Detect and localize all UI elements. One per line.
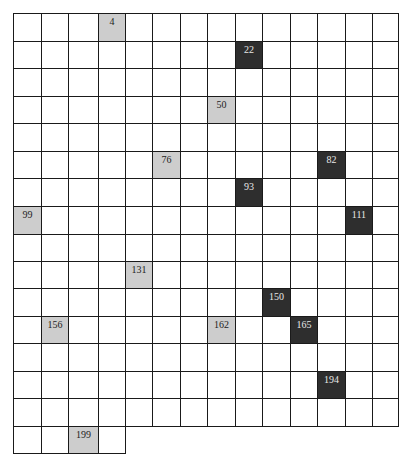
grid-cell-light-4[interactable]: 4 [98, 13, 126, 42]
grid-cell[interactable] [317, 234, 346, 262]
grid-cell[interactable] [41, 96, 69, 124]
grid-cell[interactable] [152, 343, 181, 372]
grid-cell[interactable] [317, 178, 346, 207]
grid-cell[interactable] [41, 151, 69, 179]
grid-cell[interactable] [235, 151, 263, 179]
grid-cell-dark-150[interactable]: 150 [262, 288, 291, 317]
grid-cell[interactable] [207, 68, 236, 97]
grid-cell[interactable] [262, 13, 291, 42]
grid-cell[interactable] [68, 398, 99, 427]
grid-cell[interactable] [68, 343, 99, 372]
grid-cell-light-162[interactable]: 162 [207, 316, 236, 344]
grid-cell[interactable] [125, 68, 153, 97]
grid-cell[interactable] [68, 206, 99, 235]
grid-cell[interactable] [317, 123, 346, 152]
grid-cell[interactable] [152, 288, 181, 317]
grid-cell[interactable] [41, 123, 69, 152]
grid-cell-dark-93[interactable]: 93 [235, 178, 263, 207]
grid-cell[interactable] [13, 343, 42, 372]
grid-cell[interactable] [125, 206, 153, 235]
grid-cell[interactable] [180, 13, 208, 42]
grid-cell[interactable] [317, 68, 346, 97]
grid-cell[interactable] [235, 288, 263, 317]
grid-cell[interactable] [41, 343, 69, 372]
grid-cell[interactable] [125, 371, 153, 399]
grid-cell[interactable] [290, 261, 318, 289]
grid-cell[interactable] [41, 178, 69, 207]
grid-cell[interactable] [372, 398, 399, 427]
grid-cell[interactable] [152, 41, 181, 69]
grid-cell[interactable] [317, 343, 346, 372]
grid-cell[interactable] [180, 234, 208, 262]
grid-cell-light-76[interactable]: 76 [152, 151, 181, 179]
grid-cell[interactable] [290, 13, 318, 42]
grid-cell[interactable] [68, 151, 99, 179]
grid-cell[interactable] [125, 234, 153, 262]
grid-cell-dark-194[interactable]: 194 [317, 371, 346, 399]
grid-cell[interactable] [152, 398, 181, 427]
grid-cell[interactable] [372, 123, 399, 152]
grid-cell[interactable] [98, 68, 126, 97]
grid-cell[interactable] [41, 234, 69, 262]
grid-cell[interactable] [41, 261, 69, 289]
grid-cell[interactable] [180, 123, 208, 152]
grid-cell[interactable] [68, 13, 99, 42]
grid-cell[interactable] [180, 68, 208, 97]
grid-cell[interactable] [98, 123, 126, 152]
grid-cell[interactable] [372, 316, 399, 344]
grid-cell[interactable] [207, 151, 236, 179]
grid-cell[interactable] [345, 398, 373, 427]
grid-cell[interactable] [317, 13, 346, 42]
grid-cell[interactable] [152, 123, 181, 152]
grid-cell[interactable] [13, 96, 42, 124]
grid-cell[interactable] [125, 398, 153, 427]
grid-cell[interactable] [372, 206, 399, 235]
grid-cell[interactable] [41, 68, 69, 97]
grid-cell[interactable] [68, 96, 99, 124]
grid-cell[interactable] [125, 96, 153, 124]
grid-cell[interactable] [125, 343, 153, 372]
grid-cell[interactable] [207, 288, 236, 317]
grid-cell[interactable] [262, 206, 291, 235]
grid-cell[interactable] [125, 123, 153, 152]
grid-cell[interactable] [13, 316, 42, 344]
grid-cell[interactable] [180, 261, 208, 289]
grid-cell[interactable] [98, 96, 126, 124]
grid-cell[interactable] [372, 343, 399, 372]
grid-cell[interactable] [98, 41, 126, 69]
grid-cell[interactable] [152, 68, 181, 97]
grid-cell[interactable] [290, 234, 318, 262]
grid-cell[interactable] [207, 343, 236, 372]
grid-cell[interactable] [207, 371, 236, 399]
grid-cell[interactable] [317, 41, 346, 69]
grid-cell[interactable] [98, 398, 126, 427]
grid-cell[interactable] [262, 261, 291, 289]
grid-cell[interactable] [180, 96, 208, 124]
grid-cell[interactable] [13, 288, 42, 317]
grid-cell[interactable] [372, 261, 399, 289]
grid-cell[interactable] [262, 178, 291, 207]
grid-cell[interactable] [41, 288, 69, 317]
grid-cell[interactable] [235, 206, 263, 235]
grid-cell[interactable] [262, 398, 291, 427]
grid-cell[interactable] [317, 288, 346, 317]
grid-cell[interactable] [290, 371, 318, 399]
grid-cell[interactable] [345, 343, 373, 372]
grid-cell[interactable] [372, 288, 399, 317]
grid-cell[interactable] [98, 371, 126, 399]
grid-cell[interactable] [262, 68, 291, 97]
grid-cell[interactable] [235, 343, 263, 372]
grid-cell[interactable] [41, 41, 69, 69]
grid-cell[interactable] [372, 151, 399, 179]
grid-cell[interactable] [207, 123, 236, 152]
grid-cell[interactable] [41, 13, 69, 42]
grid-cell-light-131[interactable]: 131 [125, 261, 153, 289]
grid-cell[interactable] [372, 68, 399, 97]
grid-cell[interactable] [262, 316, 291, 344]
grid-cell[interactable] [152, 13, 181, 42]
grid-cell[interactable] [372, 96, 399, 124]
grid-cell-dark-165[interactable]: 165 [290, 316, 318, 344]
grid-cell[interactable] [207, 41, 236, 69]
grid-cell[interactable] [13, 234, 42, 262]
grid-cell[interactable] [262, 234, 291, 262]
